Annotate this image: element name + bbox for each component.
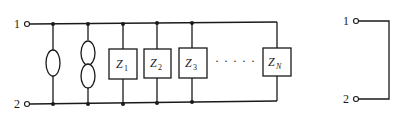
- short-circuit-wire: [359, 21, 390, 99]
- left-circuit: 1 2: [14, 17, 291, 111]
- z3-symbol: Z: [185, 56, 192, 70]
- impedance-z2: Z 2: [144, 21, 171, 105]
- z1-symbol: Z: [116, 57, 123, 71]
- terminal-2-label: 2: [14, 97, 20, 111]
- terminal-1-node: [25, 22, 30, 27]
- terminal-2-node: [25, 102, 30, 107]
- z1-subscript: 1: [124, 64, 128, 73]
- ellipse-element: [46, 50, 60, 76]
- bottom-rail: [30, 101, 277, 104]
- right-terminal-1-node: [354, 19, 359, 24]
- zn-subscript: N: [275, 62, 282, 71]
- z3-subscript: 3: [193, 63, 197, 72]
- right-terminal-2-node: [354, 97, 359, 102]
- ellipsis: · · · · ·: [215, 54, 256, 68]
- impedance-z3: Z 3: [179, 21, 207, 104]
- circuit-diagram: 1 2: [0, 0, 409, 121]
- single-ellipse-branch: [46, 22, 60, 106]
- impedance-z1: Z 1: [109, 22, 137, 106]
- top-rail: [30, 22, 277, 24]
- ellipse-upper: [81, 41, 95, 65]
- right-circuit: 1 2: [343, 14, 389, 106]
- z2-subscript: 2: [158, 63, 162, 72]
- right-terminal-2-label: 2: [343, 92, 349, 106]
- impedance-zn: Z N: [263, 48, 291, 76]
- zn-symbol: Z: [268, 55, 275, 69]
- double-ellipse-branch: [81, 22, 95, 106]
- ellipse-lower: [81, 64, 95, 88]
- terminal-1-label: 1: [14, 17, 20, 31]
- z2-symbol: Z: [150, 56, 157, 70]
- right-terminal-1-label: 1: [343, 14, 349, 28]
